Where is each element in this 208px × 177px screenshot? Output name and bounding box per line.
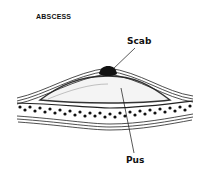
cell-dots-layer [18,104,191,118]
scab-label: Scab [127,36,151,46]
abscess-cross-section-illustration [0,0,208,177]
pus-cavity [40,76,170,103]
scab-leader-line [112,48,135,70]
pus-label: Pus [126,155,144,165]
